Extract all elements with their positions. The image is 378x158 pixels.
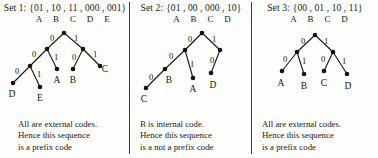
- set-2-letters: A B C D: [130, 14, 252, 24]
- tree-node: [331, 50, 336, 55]
- edge-bit-label: 0: [32, 49, 36, 59]
- tree-edge: [324, 52, 333, 71]
- letter-c: C: [202, 14, 219, 24]
- edge-bit-label: 1: [302, 56, 306, 66]
- edge-bit-label: 1: [342, 56, 346, 66]
- set-3-codes: {00 , 01 , 10 , 11}: [293, 3, 363, 13]
- letter-a: A: [168, 14, 185, 24]
- edge-bit-label: 0: [50, 33, 54, 43]
- tree-node: [218, 48, 223, 53]
- set-1-letters: A B C D E: [0, 14, 130, 24]
- set-1-codes: {01 , 10 , 11 , 000 , 001}: [29, 3, 126, 13]
- tree-node: [345, 72, 350, 77]
- tree-node: [183, 48, 188, 53]
- tree-leaf-label: A: [54, 75, 61, 85]
- letter-c: C: [65, 14, 82, 24]
- letter-b: B: [302, 14, 319, 24]
- set-2-caption-line-2: Hence this sequence: [140, 130, 262, 141]
- tree-node: [302, 72, 307, 77]
- edge-bit-label: 1: [190, 59, 194, 69]
- letter-a: A: [31, 14, 48, 24]
- edge-bit-label: 1: [324, 36, 328, 46]
- tree-leaf-label: A: [190, 84, 197, 94]
- tree-node: [322, 69, 327, 74]
- set-2-tree: 010100BADC: [130, 25, 252, 108]
- tree-leaf-label: D: [9, 89, 16, 99]
- tree-node: [71, 67, 76, 72]
- prefix-code-figure: Set 1:{01 , 10 , 11 , 000 , 001} A B C D…: [0, 0, 378, 158]
- letter-b: B: [185, 14, 202, 24]
- tree-node: [62, 31, 67, 36]
- tree-leaf-label: E: [37, 93, 43, 103]
- set-2-tree-svg: 010100BADC: [130, 25, 252, 108]
- tree-node: [81, 47, 86, 52]
- tree-leaf-label: C: [141, 94, 147, 104]
- set-3-header: Set 3:{00 , 01 , 10 , 11}: [252, 3, 378, 13]
- edge-bit-label: 0: [321, 54, 325, 64]
- edge-bit-label: 0: [15, 66, 19, 76]
- tree-node: [200, 31, 205, 36]
- tree-node: [209, 71, 214, 76]
- set-2-codes: {01 , 00 , 000 , 10}: [166, 3, 241, 13]
- set-3-tree-svg: 010101ABCD: [252, 25, 378, 108]
- panel-set-3: Set 3:{00 , 01 , 10 , 11} A B C D 010101…: [252, 0, 378, 158]
- set-3-label: Set 3:: [267, 3, 290, 13]
- set-3-tree: 010101ABCD: [252, 25, 378, 108]
- tree-node: [163, 67, 168, 72]
- edge-bit-label: 1: [93, 49, 97, 59]
- tree-node: [45, 47, 50, 52]
- set-2-caption: B is internal code. Hence this sequence …: [130, 119, 262, 153]
- tree-leaf-label: B: [301, 81, 307, 91]
- tree-node: [28, 64, 33, 69]
- tree-edge: [83, 49, 100, 66]
- tree-node: [144, 86, 149, 91]
- tree-leaf-label: D: [345, 81, 352, 91]
- edge-bit-label: 1: [212, 34, 216, 44]
- edge-bit-label: 0: [169, 51, 173, 61]
- set-3-caption-line-2: Hence this sequence: [262, 130, 378, 141]
- tree-leaf-label: B: [70, 75, 76, 85]
- letter-b: B: [48, 14, 65, 24]
- tree-node: [11, 81, 16, 86]
- tree-node: [191, 76, 196, 81]
- letter-d: D: [82, 14, 99, 24]
- set-1-tree-svg: 01010101ABCDE: [0, 25, 130, 108]
- tree-leaf-label: B: [166, 75, 172, 85]
- edge-bit-label: 1: [54, 52, 58, 62]
- edge-bit-label: 0: [301, 36, 305, 46]
- tree-node: [55, 67, 60, 72]
- edge-bit-label: 1: [37, 69, 41, 79]
- edge-bit-label: 1: [74, 33, 78, 43]
- letter-d: D: [219, 14, 236, 24]
- edge-bit-label: 0: [149, 72, 153, 82]
- tree-leaf-label: C: [321, 78, 327, 88]
- set-3-caption: All are external codes. Hence this seque…: [252, 119, 378, 153]
- edge-bit-label: 0: [188, 34, 192, 44]
- set-3-letters: A B C D: [252, 14, 378, 24]
- tree-node: [313, 33, 318, 38]
- tree-node: [295, 50, 300, 55]
- set-1-tree: 01010101ABCDE: [0, 25, 130, 108]
- tree-leaf-label: A: [278, 78, 285, 88]
- letter-c: C: [319, 14, 336, 24]
- edge-bit-label: 0: [283, 54, 287, 64]
- set-2-label: Set 2:: [141, 3, 164, 13]
- tree-node: [38, 85, 43, 90]
- set-1-caption: All are external codes. Hence this seque…: [0, 119, 148, 153]
- set-1-label: Set 1:: [4, 3, 27, 13]
- set-1-header: Set 1:{01 , 10 , 11 , 000 , 001}: [0, 3, 130, 13]
- edge-bit-label: 0: [72, 52, 76, 62]
- edge-bit-label: 0: [210, 55, 214, 65]
- set-2-caption-line-1: B is internal code.: [140, 119, 262, 130]
- tree-leaf-label: D: [210, 80, 217, 90]
- letter-d: D: [336, 14, 353, 24]
- set-2-caption-line-3: is a not a prefix code: [140, 142, 262, 153]
- tree-leaf-label: C: [102, 64, 108, 74]
- tree-node: [280, 69, 285, 74]
- letter-e: E: [99, 14, 116, 24]
- letter-a: A: [285, 14, 302, 24]
- tree-edge: [297, 35, 315, 52]
- panel-set-2: Set 2:{01 , 00 , 000 , 10} A B C D 01010…: [130, 0, 252, 158]
- set-3-caption-line-1: All are external codes.: [262, 119, 378, 130]
- panel-set-1: Set 1:{01 , 10 , 11 , 000 , 001} A B C D…: [0, 0, 130, 158]
